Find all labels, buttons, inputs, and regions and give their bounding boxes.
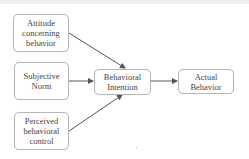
node-subjective-norm: Subjective Norm <box>14 62 69 100</box>
node-actual-behavior: Actual Behavior <box>178 69 234 94</box>
stray-dot <box>136 147 137 148</box>
node-behavioral-intention-label: Behavioral Intention <box>104 72 141 92</box>
node-subjective-norm-label: Subjective Norm <box>24 71 60 91</box>
node-behavioral-intention: Behavioral Intention <box>94 69 151 95</box>
node-perceived-control: Perceived behavioral control <box>14 112 69 150</box>
node-attitude-label: Attitude concerning behavior <box>22 18 60 48</box>
node-perceived-control-label: Perceived behavioral control <box>24 116 60 146</box>
node-actual-behavior-label: Actual Behavior <box>190 72 221 92</box>
node-attitude: Attitude concerning behavior <box>13 14 69 52</box>
arrow-pbc-to-intention <box>69 95 122 131</box>
arrow-attitude-to-intention <box>69 33 125 68</box>
